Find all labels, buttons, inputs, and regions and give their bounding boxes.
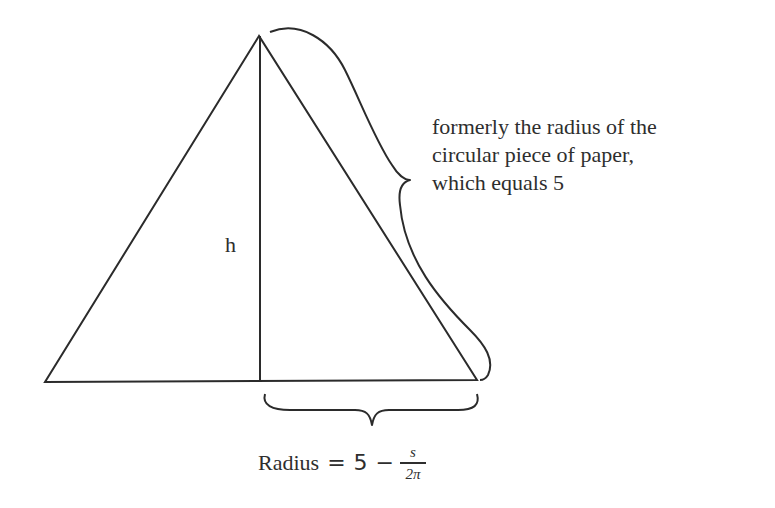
radius-brace [264,394,477,425]
note-line-3: which equals 5 [432,169,772,197]
fraction-denominator: 2π [405,466,420,482]
fraction-bar [400,462,426,464]
note-line-2: circular piece of paper, [432,141,772,169]
slant-brace [270,28,490,380]
formula-fraction: s 2π [400,444,426,482]
formula-equals: = [327,449,345,477]
radius-formula: Radius = 5 − s 2π [258,444,426,482]
height-label: h [225,231,236,259]
slant-height-note: formerly the radius of the circular piec… [432,113,772,197]
cone-triangle-diagram [0,0,775,508]
formula-lhs: Radius [258,449,319,477]
formula-minus: − [376,449,394,477]
formula-constant: 5 [354,449,368,477]
fraction-numerator: s [410,444,416,460]
note-line-1: formerly the radius of the [432,113,772,141]
